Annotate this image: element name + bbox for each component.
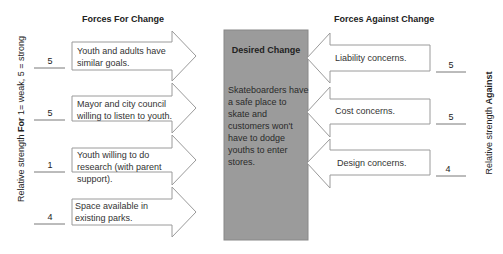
strength-for: 1 bbox=[35, 160, 65, 170]
strength-for-axis-label: Relative strength For 1= weak, 5 = stron… bbox=[16, 52, 26, 202]
strength-for: 4 bbox=[35, 212, 65, 222]
force-for-text: Youth and adults have similar goals. bbox=[77, 45, 171, 69]
force-against-text: Design concerns. bbox=[337, 157, 407, 169]
strength-against-axis-label: Relative strength Against bbox=[484, 68, 494, 178]
forces-against-header: Forces Against Change bbox=[334, 14, 434, 24]
strength-against: 4 bbox=[433, 164, 463, 174]
force-against-text: Cost concerns. bbox=[335, 105, 395, 117]
forces-for-header: Forces For Change bbox=[82, 14, 164, 24]
strength-for: 5 bbox=[35, 108, 65, 118]
desired-change-text: Skateboarders have a safe place to skate… bbox=[228, 84, 310, 168]
strength-against: 5 bbox=[436, 112, 466, 122]
force-for-text: Youth willing to do research (with paren… bbox=[77, 149, 173, 185]
strength-for: 5 bbox=[35, 56, 65, 66]
force-for-text: Mayor and city council willing to listen… bbox=[77, 98, 173, 122]
force-against-text: Liability concerns. bbox=[335, 52, 407, 64]
force-for-text: Space available in existing parks. bbox=[75, 200, 171, 224]
strength-against: 5 bbox=[436, 60, 466, 70]
desired-change-title: Desired Change bbox=[224, 45, 308, 55]
